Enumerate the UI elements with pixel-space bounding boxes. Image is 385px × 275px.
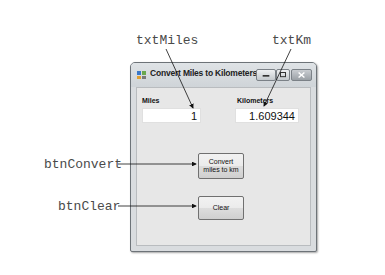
callout-txtmiles: txtMiles xyxy=(136,33,198,48)
maximize-icon xyxy=(277,70,289,80)
title-bar[interactable]: Convert Miles to Kilometers xyxy=(131,63,316,87)
kilometers-label: Kilometers xyxy=(237,97,273,104)
window-title: Convert Miles to Kilometers xyxy=(150,68,257,78)
maximize-button[interactable] xyxy=(276,69,290,81)
clear-button[interactable]: Clear xyxy=(198,196,244,220)
convert-button[interactable]: Convert miles to km xyxy=(198,153,244,179)
minimize-icon xyxy=(257,70,275,80)
minimize-button[interactable] xyxy=(256,69,276,81)
convert-button-line2: miles to km xyxy=(203,166,238,174)
close-button[interactable] xyxy=(291,69,312,81)
convert-button-line1: Convert xyxy=(209,158,234,166)
callout-btnclear: btnClear xyxy=(58,199,120,214)
form-icon xyxy=(137,70,147,80)
miles-label: Miles xyxy=(142,97,160,104)
close-icon xyxy=(292,70,311,80)
callout-txtkm: txtKm xyxy=(272,33,311,48)
app-window: Convert Miles to Kilometers Miles 1 Kilo… xyxy=(130,62,317,252)
miles-input[interactable]: 1 xyxy=(142,108,201,123)
kilometers-output[interactable]: 1.609344 xyxy=(235,108,299,123)
form-client-area: Miles 1 Kilometers 1.609344 Convert mile… xyxy=(136,87,311,246)
callout-btnconvert: btnConvert xyxy=(44,157,122,172)
